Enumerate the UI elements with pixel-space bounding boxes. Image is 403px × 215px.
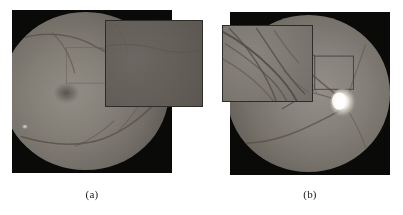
figure-container: (a) — [0, 0, 403, 215]
vessel-inferior-b-3 — [245, 109, 343, 143]
vessel-branch-a-3 — [75, 120, 115, 146]
macula-a — [53, 82, 80, 104]
panel-b — [230, 12, 390, 175]
vessel-branch-a-1 — [52, 32, 75, 73]
inset-b-vessel-3 — [225, 44, 288, 101]
roi-box-b — [315, 56, 354, 89]
vessel-temporal-b-5 — [349, 113, 367, 154]
inset-b-vessel-6 — [274, 30, 299, 63]
vessel-inferior-arcade-a — [21, 105, 154, 144]
inset-a-vessel-1 — [106, 44, 202, 52]
inset-a-vessel-4 — [135, 70, 174, 86]
inset-b-vessels — [223, 26, 312, 101]
inset-b-vessel-7 — [284, 71, 309, 92]
bright-spot-a — [22, 124, 29, 129]
inset-a-vessel-2 — [116, 25, 128, 52]
optic-cup-b — [332, 93, 346, 111]
caption-a: (a) — [62, 188, 122, 200]
inset-a-vessel-3 — [163, 50, 181, 79]
panel-a — [12, 10, 172, 173]
inset-a-vessels — [106, 21, 202, 106]
inset-a — [105, 20, 203, 107]
caption-b: (b) — [280, 188, 340, 200]
inset-b — [222, 25, 313, 102]
